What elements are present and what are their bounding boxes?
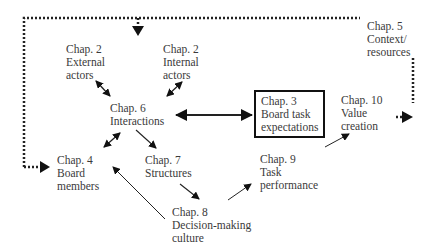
- node-line: Value: [341, 107, 383, 120]
- node-line: Structures: [145, 167, 192, 180]
- node-line: members: [57, 180, 99, 193]
- node-ch6-interactions: Chap. 6 Interactions: [110, 102, 164, 128]
- node-line: Chap. 5: [367, 20, 410, 33]
- node-ch9-task-performance: Chap. 9 Task performance: [260, 153, 318, 192]
- node-ch3-board-task-expectations: Chap. 3 Board task expectations: [254, 90, 325, 138]
- node-line: actors: [66, 69, 105, 82]
- node-line: Chap. 8: [172, 206, 251, 219]
- node-ch2-internal-actors: Chap. 2 Internal actors: [163, 43, 199, 82]
- node-ch10-value-creation: Chap. 10 Value creation: [341, 94, 383, 133]
- node-line: Board: [57, 167, 99, 180]
- node-line: Chap. 2: [66, 43, 105, 56]
- node-ch7-structures: Chap. 7 Structures: [145, 154, 192, 180]
- node-line: Chap. 6: [110, 102, 164, 115]
- node-line: Decision-making: [172, 219, 251, 232]
- node-line: Chap. 7: [145, 154, 192, 167]
- node-line: performance: [260, 179, 318, 192]
- node-line: Chap. 3: [261, 95, 318, 108]
- node-line: creation: [341, 120, 383, 133]
- node-line: Chap. 2: [163, 43, 199, 56]
- node-line: expectations: [261, 121, 318, 134]
- node-line: resources: [367, 46, 410, 59]
- node-ch5-context-resources: Chap. 5 Context/ resources: [367, 20, 410, 59]
- node-line: actors: [163, 69, 199, 82]
- node-line: Interactions: [110, 115, 164, 128]
- node-ch2-external-actors: Chap. 2 External actors: [66, 43, 105, 82]
- node-line: Chap. 9: [260, 153, 318, 166]
- dotted-context-frame: [24, 18, 413, 167]
- node-line: Board task: [261, 108, 318, 121]
- node-line: Task: [260, 166, 318, 179]
- node-line: Internal: [163, 56, 199, 69]
- node-ch4-board-members: Chap. 4 Board members: [57, 154, 99, 193]
- node-line: Context/: [367, 33, 410, 46]
- node-ch8-decision-making-culture: Chap. 8 Decision-making culture: [172, 206, 251, 245]
- node-line: culture: [172, 232, 251, 245]
- node-line: External: [66, 56, 105, 69]
- node-line: Chap. 4: [57, 154, 99, 167]
- node-line: Chap. 10: [341, 94, 383, 107]
